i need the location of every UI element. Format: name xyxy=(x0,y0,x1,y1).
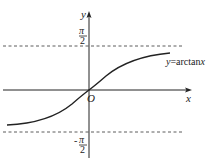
lower-asymptote-label: - π 2 xyxy=(74,134,87,155)
y-axis xyxy=(87,11,92,158)
x-axis-label: x xyxy=(185,92,191,104)
upper-label-denominator: 2 xyxy=(80,35,85,46)
curve-label-x: x xyxy=(200,56,206,67)
x-axis xyxy=(3,88,192,93)
arctan-graph: y x O π 2 - π 2 y=arctanx xyxy=(0,0,213,162)
y-axis-label: y xyxy=(80,8,86,20)
lower-label-sign: - xyxy=(74,135,77,146)
lower-label-denominator: 2 xyxy=(80,144,85,155)
origin-label: O xyxy=(87,92,95,104)
curve-label-eq: =arctan xyxy=(170,56,200,67)
curve-label: y=arctanx xyxy=(165,56,206,67)
upper-asymptote-label: π 2 xyxy=(79,25,87,46)
